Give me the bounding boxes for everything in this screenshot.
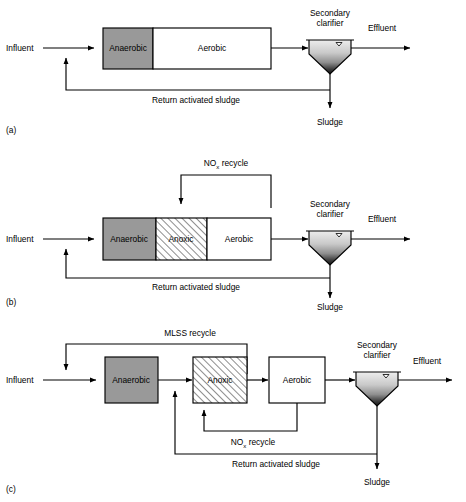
sludge-label-b: Sludge (317, 302, 343, 312)
effluent-label-b: Effluent (368, 214, 397, 224)
effluent-label-c: Effluent (413, 356, 442, 366)
influent-label-c: Influent (6, 375, 34, 385)
anaerobic-label-b: Anaerobic (110, 234, 148, 244)
nox-recycle-flow-line-c (204, 403, 297, 431)
panel-caption-a: (a) (6, 125, 16, 135)
clarifier-label-line2-b: clarifier (317, 209, 344, 219)
anoxic-label-b: Anoxic (168, 234, 193, 244)
anaerobic-label-c: Anaerobic (112, 375, 150, 385)
panel-c: MLSS recycle Influent Anaerobic Anoxic A… (0, 312, 466, 502)
panel-caption-c: (c) (6, 484, 16, 494)
nox-recycle-label-c: NOx recycle (231, 437, 276, 449)
ras-label-a: Return activated sludge (152, 95, 240, 105)
figure-root: Influent Anaerobic Aerobic Secondary cla… (0, 0, 466, 502)
clarifier-label-line1-c: Secondary (357, 340, 398, 350)
clarifier-label-line1-b: Secondary (310, 199, 351, 209)
nox-recycle-label-b: NOx recycle (204, 158, 249, 170)
clarifier-label-line2-c: clarifier (364, 350, 391, 360)
aerobic-label-a: Aerobic (198, 43, 226, 53)
influent-label-a: Influent (6, 43, 34, 53)
anaerobic-label-a: Anaerobic (109, 43, 147, 53)
ras-label-c: Return activated sludge (232, 459, 320, 469)
clarifier-label-line2-a: clarifier (317, 18, 344, 28)
clarifier-label-line1-a: Secondary (310, 8, 351, 18)
clarifier-body-c (356, 372, 398, 406)
panel-b: NOx recycle Influent Anaerobic Anoxic Ae… (0, 150, 466, 312)
aerobic-label-b: Aerobic (225, 234, 253, 244)
nox-recycle-flow-line-b (181, 175, 271, 208)
ras-label-b: Return activated sludge (152, 282, 240, 292)
influent-label-b: Influent (6, 234, 34, 244)
panel-caption-b: (b) (6, 297, 16, 307)
clarifier-body-a (309, 40, 351, 74)
panel-a: Influent Anaerobic Aerobic Secondary cla… (0, 0, 466, 150)
sludge-label-a: Sludge (317, 117, 343, 127)
anoxic-label-c: Anoxic (207, 375, 232, 385)
mlss-recycle-label-c: MLSS recycle (164, 328, 216, 338)
effluent-label-a: Effluent (368, 23, 397, 33)
clarifier-body-b (309, 231, 351, 265)
sludge-label-c: Sludge (364, 477, 390, 487)
aerobic-label-c: Aerobic (283, 375, 311, 385)
